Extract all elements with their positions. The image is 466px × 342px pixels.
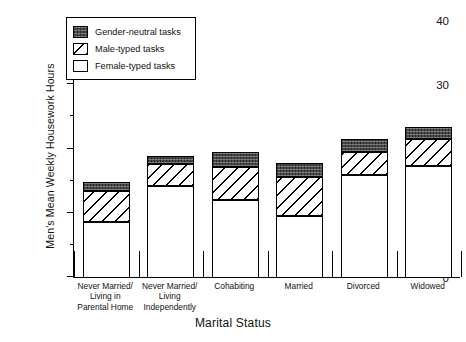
y-tick-major	[67, 276, 74, 277]
x-category-label: Married	[267, 281, 332, 291]
x-tick	[332, 251, 333, 277]
stacked-bar[interactable]	[341, 139, 387, 277]
legend-swatch-female-typed-icon	[73, 60, 88, 72]
stacked-bar[interactable]	[277, 163, 323, 277]
bar-segment-female[interactable]	[276, 216, 323, 277]
bar-segment-male[interactable]	[405, 139, 452, 166]
x-tick	[397, 251, 398, 277]
housework-hours-stacked-bar-chart: Men's Mean Weekly Housework Hours 010203…	[0, 0, 466, 342]
stacked-bar[interactable]	[406, 127, 452, 277]
bar-slot	[397, 21, 462, 277]
bar-segment-neutral[interactable]	[83, 182, 130, 191]
legend-item-male-typed: Male-typed tasks	[73, 40, 189, 57]
x-axis-title: Marital Status	[0, 316, 466, 330]
y-tick-major	[67, 83, 74, 84]
legend-swatch-male-typed-icon	[73, 43, 88, 55]
x-category-label: Widowed	[396, 281, 461, 291]
bar-segment-female[interactable]	[147, 186, 194, 277]
legend-swatch-gender-neutral-icon	[73, 26, 88, 38]
legend-label-male-typed: Male-typed tasks	[95, 44, 164, 54]
bar-segment-male[interactable]	[276, 177, 323, 216]
x-category-label: Never Married/ Living in Parental Home	[73, 281, 138, 312]
bar-segment-neutral[interactable]	[276, 163, 323, 176]
legend-item-female-typed: Female-typed tasks	[73, 57, 189, 74]
bar-slot	[268, 21, 333, 277]
x-category-label: Never Married/ Living Independently	[138, 281, 203, 312]
legend-label-female-typed: Female-typed tasks	[95, 61, 175, 71]
bar-segment-neutral[interactable]	[147, 156, 194, 164]
bar-segment-neutral[interactable]	[212, 152, 259, 167]
bar-slot	[332, 21, 397, 277]
x-tick	[268, 251, 269, 277]
x-tick	[203, 251, 204, 277]
x-tick	[139, 251, 140, 277]
chart-legend: Gender-neutral tasks Male-typed tasks Fe…	[66, 17, 196, 80]
stacked-bar[interactable]	[83, 182, 129, 277]
y-tick-major	[67, 148, 74, 149]
bar-segment-male[interactable]	[83, 191, 130, 222]
legend-label-gender-neutral: Gender-neutral tasks	[95, 27, 181, 37]
bar-slot	[203, 21, 268, 277]
x-tick	[74, 251, 75, 277]
y-axis-title: Men's Mean Weekly Housework Hours	[44, 26, 56, 286]
stacked-bar[interactable]	[212, 152, 258, 277]
stacked-bar[interactable]	[148, 156, 194, 277]
bar-segment-female[interactable]	[341, 175, 388, 277]
x-category-label: Divorced	[331, 281, 396, 291]
bar-segment-female[interactable]	[405, 166, 452, 277]
bar-segment-male[interactable]	[341, 152, 388, 175]
bar-segment-female[interactable]	[83, 222, 130, 277]
legend-item-gender-neutral: Gender-neutral tasks	[73, 23, 189, 40]
bar-segment-neutral[interactable]	[405, 127, 452, 139]
y-tick-major	[67, 212, 74, 213]
bar-segment-female[interactable]	[212, 200, 259, 277]
x-tick	[461, 251, 462, 277]
bar-segment-male[interactable]	[147, 164, 194, 186]
bar-segment-male[interactable]	[212, 167, 259, 200]
bar-segment-neutral[interactable]	[341, 139, 388, 152]
x-category-label: Cohabiting	[202, 281, 267, 291]
